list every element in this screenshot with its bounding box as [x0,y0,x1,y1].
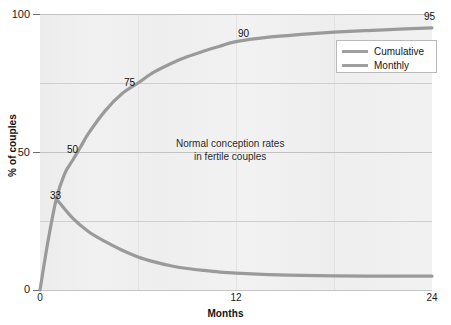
chart-annotation: Normal conception rates in fertile coupl… [176,138,284,163]
annotation-line-1: Normal conception rates [176,138,284,151]
point-label-75: 75 [124,77,135,88]
legend-item-monthly[interactable]: Monthly [342,59,431,71]
point-label-95: 95 [424,11,435,22]
conception-rate-chart: 100 50 0 0 12 24 % of couples Months 33 … [0,0,451,325]
legend-item-cumulative[interactable]: Cumulative [342,45,431,57]
legend-swatch-cumulative [342,50,368,53]
annotation-line-2: in fertile couples [176,151,284,164]
legend-label-monthly: Monthly [374,60,409,71]
series-line-monthly [56,199,432,276]
legend-label-cumulative: Cumulative [374,46,424,57]
point-label-33: 33 [50,190,61,201]
point-label-50: 50 [67,144,78,155]
point-label-90: 90 [238,28,249,39]
legend-swatch-monthly [342,64,368,67]
legend: Cumulative Monthly [336,40,437,73]
